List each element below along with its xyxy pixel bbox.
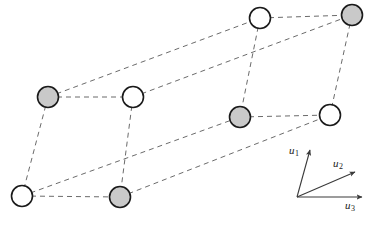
axis-u3-label: u3 (345, 199, 355, 213)
axis-triad (297, 150, 362, 197)
lattice-figure: u1u2u3 (0, 0, 379, 228)
lattice-site-circle (250, 8, 271, 29)
axis-u2-label-subscript: 2 (339, 162, 344, 171)
lattice-node-front-top-right[interactable] (123, 87, 144, 108)
axis-u3-label-base: u (345, 199, 351, 211)
lattice-node-layer (12, 5, 363, 208)
lattice-node-back-top-left[interactable] (250, 8, 271, 29)
edge-back-top (260, 15, 352, 18)
lattice-node-front-bottom-right[interactable] (110, 187, 131, 208)
edge-depth-top-right (133, 15, 352, 97)
lattice-site-circle (342, 5, 363, 26)
edge-back-right (330, 15, 352, 115)
axis-u3-label-subscript: 3 (351, 204, 356, 213)
edge-depth-bottom-left (22, 117, 240, 196)
lattice-site-circle (123, 87, 144, 108)
edge-front-bottom (22, 196, 120, 197)
lattice-edge-layer (22, 15, 352, 197)
edge-back-left (240, 18, 260, 117)
lattice-node-front-bottom-left[interactable] (12, 186, 33, 207)
lattice-site-circle (12, 186, 33, 207)
lattice-site-circle (110, 187, 131, 208)
lattice-node-back-bottom-left[interactable] (230, 107, 251, 128)
axis-u2-label: u2 (333, 157, 343, 171)
lattice-node-front-top-left[interactable] (38, 87, 59, 108)
lattice-site-circle (320, 105, 341, 126)
axis-u1-label-base: u (289, 144, 295, 156)
edge-front-right (120, 97, 133, 197)
axis-u2-arrow (297, 172, 355, 197)
edge-depth-top-left (48, 18, 260, 97)
lattice-node-back-top-right[interactable] (342, 5, 363, 26)
axis-u1-label: u1 (289, 144, 299, 158)
lattice-site-circle (38, 87, 59, 108)
axis-u2-label-base: u (333, 157, 339, 169)
axis-u1-label-subscript: 1 (295, 149, 300, 158)
edge-front-left (22, 97, 48, 196)
lattice-site-circle (230, 107, 251, 128)
lattice-node-back-bottom-right[interactable] (320, 105, 341, 126)
lattice-diagram (0, 0, 379, 228)
edge-back-bottom (240, 115, 330, 117)
